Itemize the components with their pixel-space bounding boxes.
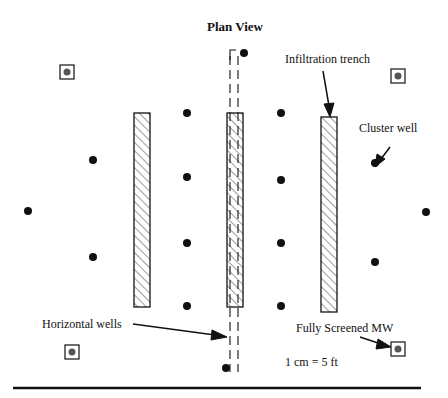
- plan-view-diagram: [0, 0, 448, 398]
- cluster-well-dot: [240, 49, 248, 57]
- label-cluster-well: Cluster well: [359, 121, 417, 136]
- cluster-well-dot: [277, 302, 285, 310]
- cluster-well-dot: [89, 156, 97, 164]
- label-horizontal-wells: Horizontal wells: [42, 317, 122, 332]
- arrow-head-icon: [376, 339, 391, 349]
- trench: [227, 113, 243, 307]
- arrow-head-icon: [324, 103, 334, 117]
- cluster-well-dot: [183, 173, 191, 181]
- cluster-well-dot: [183, 239, 191, 247]
- arrow-head-icon: [211, 330, 227, 340]
- cluster-well-dot: [277, 176, 285, 184]
- diagram-title: Plan View: [207, 19, 263, 35]
- monitoring-well: [65, 345, 79, 359]
- cluster-well-dot: [277, 239, 285, 247]
- trench: [321, 117, 337, 312]
- cluster-well-dot: [183, 302, 191, 310]
- cluster-well-dot: [24, 207, 32, 215]
- label-fully-screened-mw: Fully Screened MW: [296, 321, 393, 336]
- infiltration-trenches: [134, 113, 337, 312]
- cluster-well-dot: [371, 258, 379, 266]
- label-scale: 1 cm = 5 ft: [285, 355, 338, 370]
- cluster-well-dot: [222, 364, 230, 372]
- cluster-well-dot: [422, 208, 430, 216]
- monitoring-well: [391, 342, 405, 356]
- cluster-well-dot: [89, 253, 97, 261]
- cluster-well-dot: [183, 109, 191, 117]
- label-infiltration-trench: Infiltration trench: [285, 52, 370, 67]
- monitoring-well: [391, 69, 405, 83]
- trench: [134, 113, 150, 307]
- annotation-arrows: [133, 71, 391, 349]
- cluster-well-dot: [277, 109, 285, 117]
- monitoring-well: [60, 65, 74, 79]
